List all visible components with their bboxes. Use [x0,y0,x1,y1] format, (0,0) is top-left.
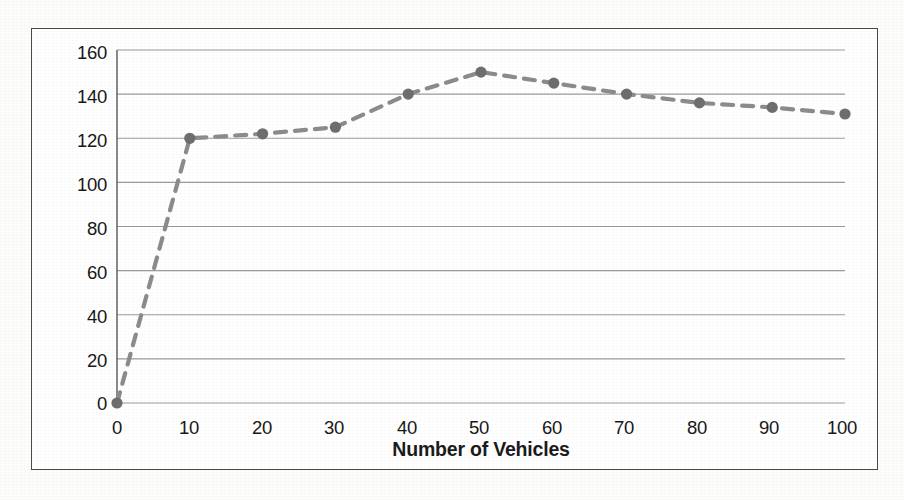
data-point [330,122,341,133]
data-point [475,67,486,78]
data-point [257,128,268,139]
data-point [403,89,414,100]
data-point-markers [111,67,850,409]
data-point [548,78,559,89]
data-series-line [117,72,845,403]
data-point [111,397,122,408]
figure-root: Throughput in Kbps Number of Vehicles 16… [0,0,904,500]
data-point [621,89,632,100]
data-point [839,108,850,119]
data-point [184,133,195,144]
plot-area [0,0,904,500]
data-point [694,97,705,108]
data-point [767,102,778,113]
gridlines [117,50,845,403]
